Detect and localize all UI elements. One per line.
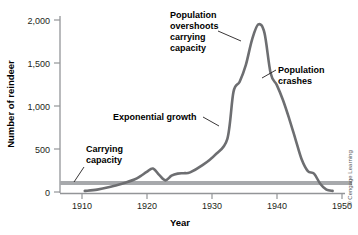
population-curve [85, 24, 333, 191]
figure-container: 2,000 1,500 1,000 500 0 1910 1920 1930 1… [0, 0, 358, 235]
y-axis-title: Number of reindeer [5, 60, 16, 148]
exponential-growth-label: Exponential growth [113, 112, 197, 122]
x-axis-tick-labels: 1910 1920 1930 1940 1950 [72, 201, 352, 211]
population-crashes-line-1: Population [278, 65, 325, 75]
y-tick-label-1500: 1,500 [27, 59, 50, 69]
y-tick-label-0: 0 [45, 188, 50, 198]
y-axis-tick-labels: 2,000 1,500 1,000 500 0 [27, 16, 50, 198]
reindeer-population-chart: 2,000 1,500 1,000 500 0 1910 1920 1930 1… [0, 0, 358, 235]
y-tick-label-1000: 1,000 [27, 102, 50, 112]
population-overshoots-line-4: capacity [170, 43, 206, 53]
population-overshoots-line-3: carrying [170, 32, 206, 42]
annotation-population-overshoots: Population overshoots carrying capacity [170, 10, 241, 53]
exponential-growth-leader-line [203, 117, 219, 126]
annotation-exponential-growth: Exponential growth [113, 112, 219, 126]
y-axis-ticks [54, 20, 60, 192]
population-overshoots-line-1: Population [170, 10, 217, 20]
x-tick-label-1940: 1940 [267, 201, 287, 211]
carrying-capacity-label-line-1: Carrying [86, 144, 123, 154]
carrying-capacity-leader-line [74, 167, 84, 182]
x-axis-title: Year [170, 217, 190, 228]
population-overshoots-line-2: overshoots [170, 21, 219, 31]
carrying-capacity-label-line-2: capacity [86, 155, 122, 165]
annotation-carrying-capacity: Carrying capacity [74, 144, 123, 182]
population-overshoots-leader-line [218, 31, 241, 41]
x-tick-label-1930: 1930 [202, 201, 222, 211]
copyright-credit: © Cengage Learning [347, 150, 353, 205]
x-tick-label-1920: 1920 [137, 201, 157, 211]
y-tick-label-500: 500 [35, 145, 50, 155]
population-crashes-line-2: crashes [278, 76, 312, 86]
x-tick-label-1910: 1910 [72, 201, 92, 211]
y-tick-label-2000: 2,000 [27, 16, 50, 26]
